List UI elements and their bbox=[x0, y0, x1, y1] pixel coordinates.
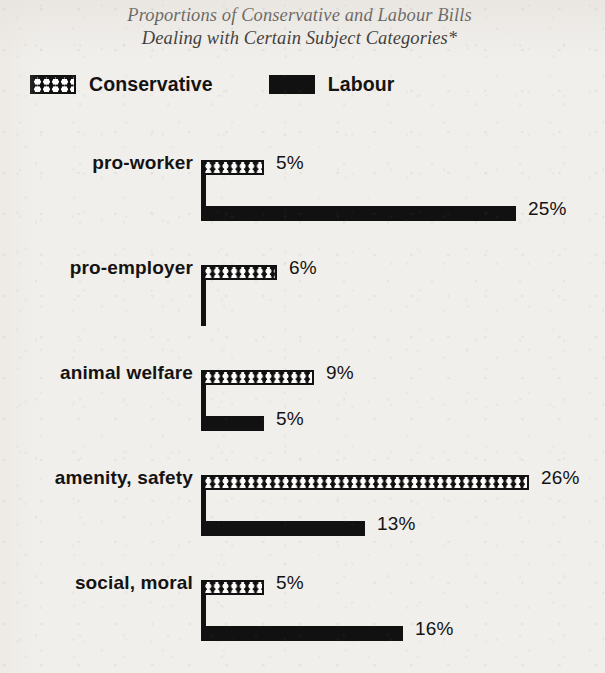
bar-value-conservative: 9% bbox=[326, 362, 354, 384]
bar-conservative bbox=[201, 580, 264, 595]
category-label: social, moral bbox=[0, 572, 193, 594]
bar-value-conservative: 5% bbox=[276, 572, 304, 594]
bar-chart-plot-area: pro-worker5%25%pro-employer6%animal welf… bbox=[0, 0, 605, 673]
bar-value-labour: 25% bbox=[528, 198, 567, 220]
category-label: pro-employer bbox=[0, 257, 193, 279]
bar-value-conservative: 5% bbox=[276, 152, 304, 174]
bar-conservative bbox=[201, 370, 314, 385]
bar-conservative bbox=[201, 160, 264, 175]
category-label: animal welfare bbox=[0, 362, 193, 384]
bar-labour bbox=[201, 626, 403, 641]
bar-value-labour: 5% bbox=[276, 408, 304, 430]
bar-labour bbox=[201, 206, 516, 221]
category-label: pro-worker bbox=[0, 152, 193, 174]
bar-value-conservative: 26% bbox=[541, 467, 580, 489]
bar-labour bbox=[201, 521, 365, 536]
bar-labour bbox=[201, 416, 264, 431]
bar-conservative bbox=[201, 265, 277, 280]
bar-value-labour: 16% bbox=[415, 618, 454, 640]
bar-conservative bbox=[201, 475, 529, 490]
bar-value-labour: 13% bbox=[377, 513, 416, 535]
bar-value-conservative: 6% bbox=[289, 257, 317, 279]
category-label: amenity, safety bbox=[0, 467, 193, 489]
